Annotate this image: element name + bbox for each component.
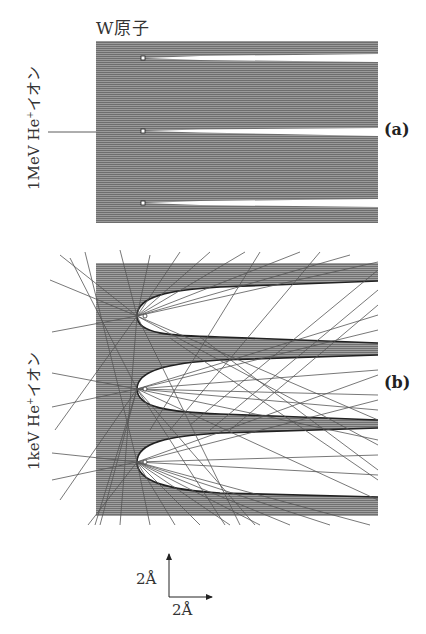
w-atom bbox=[143, 460, 147, 464]
w-atom bbox=[141, 129, 145, 133]
w-atom bbox=[143, 387, 147, 391]
w-atom bbox=[141, 201, 145, 205]
w-atom bbox=[143, 314, 147, 318]
diagram-canvas bbox=[0, 0, 426, 634]
panel-b bbox=[50, 250, 378, 525]
scale-label-horizontal: 2Å bbox=[172, 601, 192, 619]
scale-label-vertical: 2Å bbox=[136, 570, 156, 588]
scale-bar bbox=[169, 554, 212, 597]
w-atom bbox=[141, 56, 145, 60]
panel-a bbox=[48, 41, 378, 223]
